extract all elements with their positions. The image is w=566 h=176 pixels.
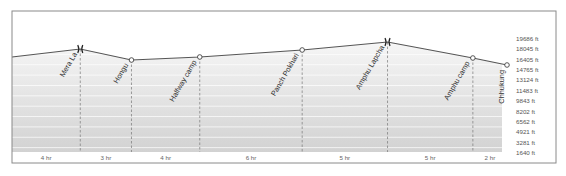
segment-duration-label: 5 hr: [340, 154, 351, 161]
y-tick-label: 18045 ft: [516, 45, 539, 52]
camp-marker-icon: [505, 63, 510, 68]
camp-marker-icon: [300, 48, 305, 53]
segment-duration-label: 3 hr: [101, 154, 112, 161]
elevation-profile-svg: Mera LaHonguHalfway campPanch PokhariAmp…: [0, 0, 566, 176]
y-tick-label: 3281 ft: [516, 139, 535, 146]
camp-marker-icon: [197, 55, 202, 60]
y-tick-label: 16405 ft: [516, 56, 539, 63]
elevation-area: [12, 42, 507, 152]
y-tick-label: 4921 ft: [516, 128, 535, 135]
y-tick-label: 19686 ft: [516, 35, 539, 42]
elevation-profile-chart: Mera LaHonguHalfway campPanch PokhariAmp…: [0, 0, 566, 176]
segment-duration-label: 6 hr: [246, 154, 257, 161]
segment-duration-label: 4 hr: [160, 154, 171, 161]
segment-duration-label: 4 hr: [41, 154, 52, 161]
y-tick-label: 6562 ft: [516, 118, 535, 125]
camp-marker-icon: [471, 56, 476, 61]
elevation-fill: [12, 42, 507, 152]
y-tick-label: 9843 ft: [516, 97, 535, 104]
y-tick-label: 13124 ft: [516, 76, 539, 83]
camp-marker-icon: [129, 58, 134, 63]
y-tick-label: 1640 ft: [516, 149, 535, 156]
segment-duration-label: 2 hr: [485, 154, 496, 161]
y-tick-label: 14765 ft: [516, 66, 539, 73]
segment-duration-label: 5 hr: [425, 154, 436, 161]
waypoint-label: Chhukung: [497, 70, 506, 104]
y-tick-label: 8202 ft: [516, 108, 535, 115]
y-tick-label: 11483 ft: [516, 87, 538, 94]
